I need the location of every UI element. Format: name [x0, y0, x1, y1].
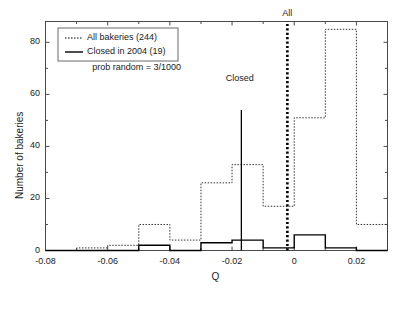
marker-label-all: All	[274, 8, 300, 18]
marker-label-closed: Closed	[218, 73, 262, 83]
x-tick-label-2: -0.04	[152, 256, 188, 266]
y-tick-label-3: 60	[20, 88, 40, 98]
x-tick-label-5: 0.02	[338, 256, 374, 266]
x-tick-label-4: 0	[276, 256, 312, 266]
x-axis-label: Q	[212, 271, 220, 282]
legend-label-2: Closed in 2004 (19)	[87, 46, 166, 56]
histogram-figure: Number of bakeries Q 020406080 -0.08-0.0…	[0, 0, 410, 310]
x-tick-label-1: -0.06	[90, 256, 126, 266]
histogram-series-2	[46, 235, 388, 251]
x-tick-label-0: -0.08	[28, 256, 64, 266]
y-tick-label-1: 20	[20, 192, 40, 202]
y-tick-label-2: 40	[20, 140, 40, 150]
annotation-1: prob random = 3/1000	[92, 62, 181, 72]
y-axis-label: Number of bakeries	[14, 111, 25, 198]
y-tick-label-4: 80	[20, 36, 40, 46]
legend-label-1: All bakeries (244)	[87, 32, 157, 42]
x-tick-label-3: -0.02	[214, 256, 250, 266]
y-tick-label-0: 0	[20, 245, 40, 255]
